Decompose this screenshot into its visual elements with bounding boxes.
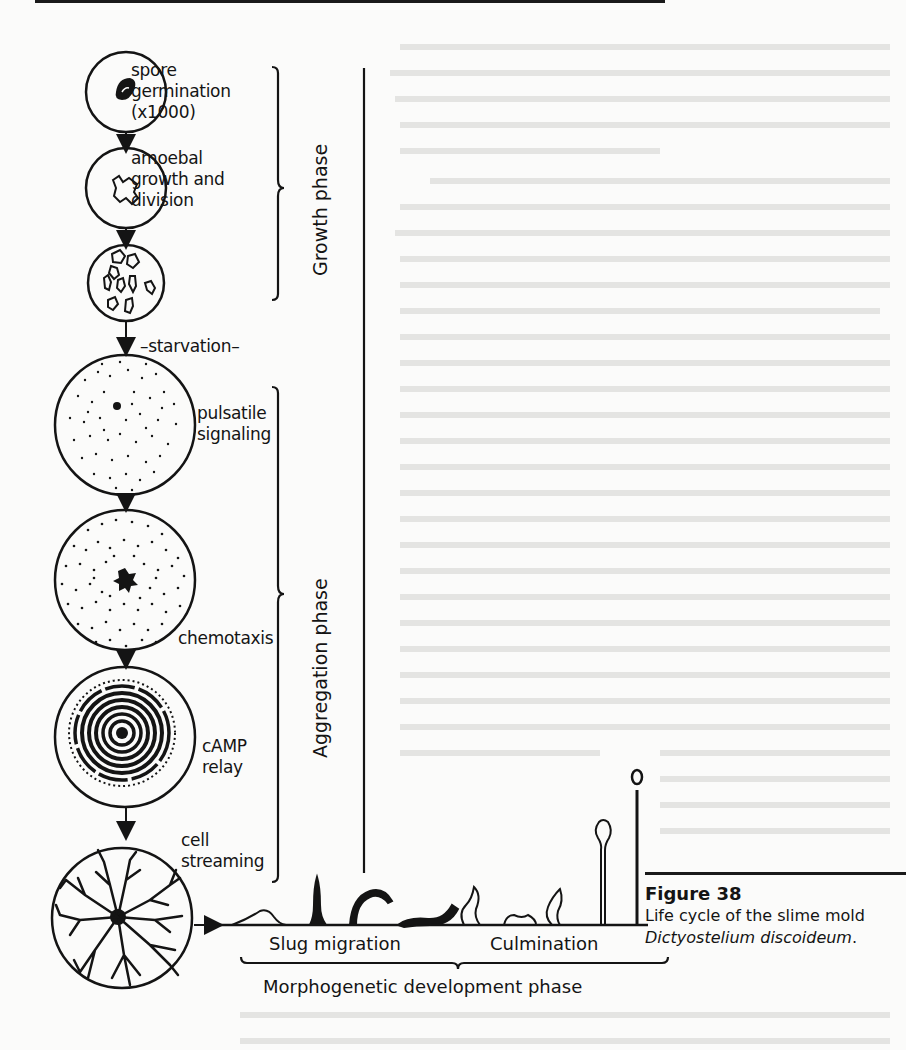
figure-number: Figure 38	[645, 883, 905, 905]
label-camp-relay: cAMP relay	[202, 736, 247, 778]
label-starvation: –starvation–	[140, 336, 239, 357]
caption-text: Life cycle of the slime mold Dictyosteli…	[645, 905, 905, 949]
label-spore-germination: spore germination (x1000)	[131, 60, 231, 123]
label-chemotaxis: chemotaxis	[178, 628, 273, 649]
pulsatile-signaling-circle	[55, 355, 195, 495]
aggregation-phase-brace	[272, 387, 284, 882]
label-slug-migration: Slug migration	[269, 933, 401, 954]
slug-migration-stages	[232, 770, 642, 927]
growth-phase-brace	[272, 67, 284, 300]
figure-caption: Figure 38 Life cycle of the slime mold D…	[645, 872, 905, 949]
label-amoebal-growth: amoebal growth and division	[131, 148, 225, 211]
label-morphogenetic-phase: Morphogenetic development phase	[263, 976, 582, 997]
caption-prefix: Life cycle of the slime mold	[645, 906, 865, 925]
camp-relay-circle	[55, 667, 195, 807]
caption-species: Dictyostelium discoideum	[645, 928, 852, 947]
label-cell-streaming: cell streaming	[181, 830, 264, 872]
caption-suffix: .	[852, 928, 857, 947]
amoebae-population-circle	[88, 245, 164, 321]
label-pulsatile-signaling: pulsatile signaling	[197, 403, 271, 445]
morphogenetic-phase-brace	[241, 957, 668, 969]
chemotaxis-circle	[55, 510, 195, 650]
label-aggregation-phase: Aggregation phase	[309, 578, 331, 758]
cell-streaming-circle	[52, 848, 192, 988]
caption-rule	[645, 872, 906, 875]
label-culmination: Culmination	[490, 933, 598, 954]
label-growth-phase: Growth phase	[309, 144, 331, 276]
